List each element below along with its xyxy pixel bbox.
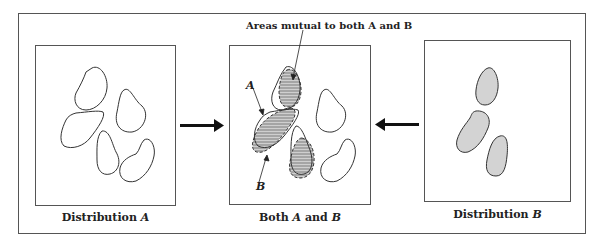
label-b: B (255, 180, 265, 193)
mutual-areas-label: Areas mutual to both A and B (245, 20, 412, 31)
caption-both: Both A and B (229, 211, 371, 224)
caption-distribution-a: Distribution A (35, 211, 176, 224)
distribution-a-blobs (61, 67, 154, 182)
label-a: A (245, 79, 255, 92)
caption-distribution-b: Distribution B (424, 208, 571, 221)
arrow-right-icon (180, 119, 224, 132)
arrow-left-icon (375, 118, 419, 131)
distribution-b-blobs (457, 68, 508, 176)
